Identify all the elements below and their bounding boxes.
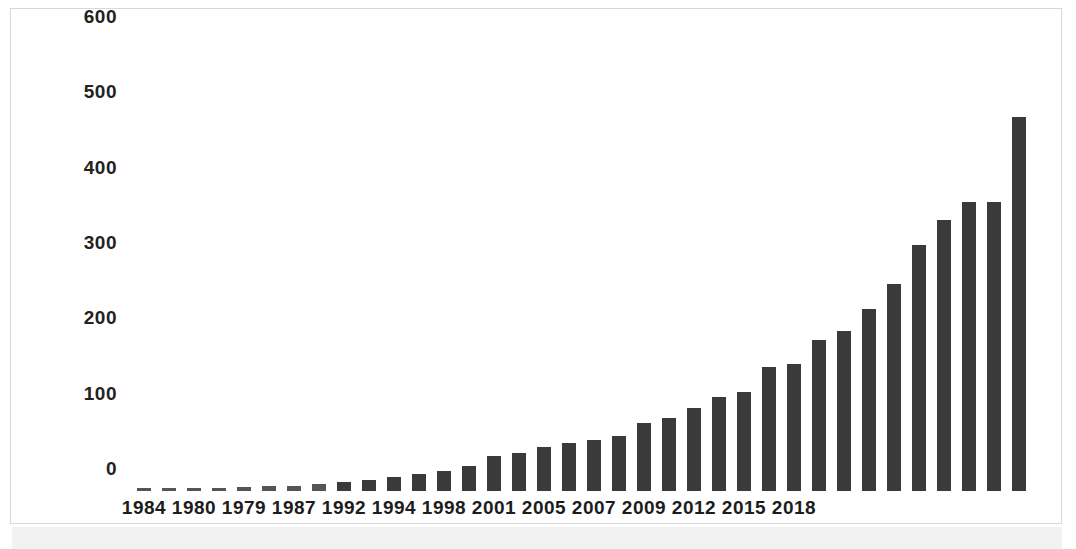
bar (862, 309, 876, 491)
bar (537, 447, 551, 491)
bar (187, 488, 201, 491)
bar-series (131, 39, 1031, 491)
bar (962, 202, 976, 491)
bar (562, 443, 576, 491)
bar (587, 440, 601, 491)
y-axis-tick-label: 300 (84, 232, 117, 254)
bar (737, 392, 751, 491)
bar (287, 486, 301, 491)
figure-frame: 0100200300400500600 19841980197919871992… (10, 8, 1062, 524)
y-axis-tick-label: 100 (84, 383, 117, 405)
y-axis-tick-label: 400 (84, 157, 117, 179)
bar (312, 484, 326, 491)
plot-area: 0100200300400500600 (131, 39, 1031, 491)
x-axis-tick-label: 1987 (272, 497, 316, 519)
x-axis-tick-label: 1980 (172, 497, 216, 519)
x-axis-tick-label: 1992 (322, 497, 366, 519)
bar (1012, 117, 1026, 491)
y-axis-tick-label: 600 (84, 6, 117, 28)
bar (887, 284, 901, 491)
x-axis-tick-label: 2018 (772, 497, 816, 519)
bar (387, 477, 401, 491)
x-axis-tick-label: 2015 (722, 497, 766, 519)
bar (212, 488, 226, 491)
bar (612, 436, 626, 491)
y-axis-tick-label: 0 (106, 458, 117, 480)
bar (412, 474, 426, 491)
x-axis-tick-label: 2007 (572, 497, 616, 519)
x-axis-tick-label: 2005 (522, 497, 566, 519)
y-axis-tick-label: 200 (84, 307, 117, 329)
x-axis-tick-label: 1994 (372, 497, 416, 519)
bar (237, 487, 251, 491)
y-axis-tick-label: 500 (84, 81, 117, 103)
bar (987, 202, 1001, 491)
bar (637, 423, 651, 491)
bar (912, 245, 926, 491)
x-axis-tick-label: 1984 (122, 497, 166, 519)
chart-page: 0100200300400500600 19841980197919871992… (0, 0, 1076, 549)
bar (837, 331, 851, 491)
bar (337, 482, 351, 491)
bar (437, 471, 451, 491)
x-axis-tick-label: 1998 (422, 497, 466, 519)
x-axis-tick-label: 2012 (672, 497, 716, 519)
bar (687, 408, 701, 491)
bar (787, 364, 801, 491)
bar (812, 340, 826, 491)
x-axis: 1984198019791987199219941998200120052007… (131, 497, 1031, 523)
bar (712, 397, 726, 491)
x-axis-tick-label: 1979 (222, 497, 266, 519)
bar (487, 456, 501, 491)
bar (262, 486, 276, 491)
bar (662, 418, 676, 491)
bar (162, 488, 176, 491)
page-bottom-strip (12, 527, 1062, 549)
bar (512, 453, 526, 491)
bar (937, 220, 951, 491)
x-axis-tick-label: 2009 (622, 497, 666, 519)
bar (137, 488, 151, 491)
bar (362, 480, 376, 491)
x-axis-tick-label: 2001 (472, 497, 516, 519)
bar (462, 466, 476, 491)
bar (762, 367, 776, 491)
